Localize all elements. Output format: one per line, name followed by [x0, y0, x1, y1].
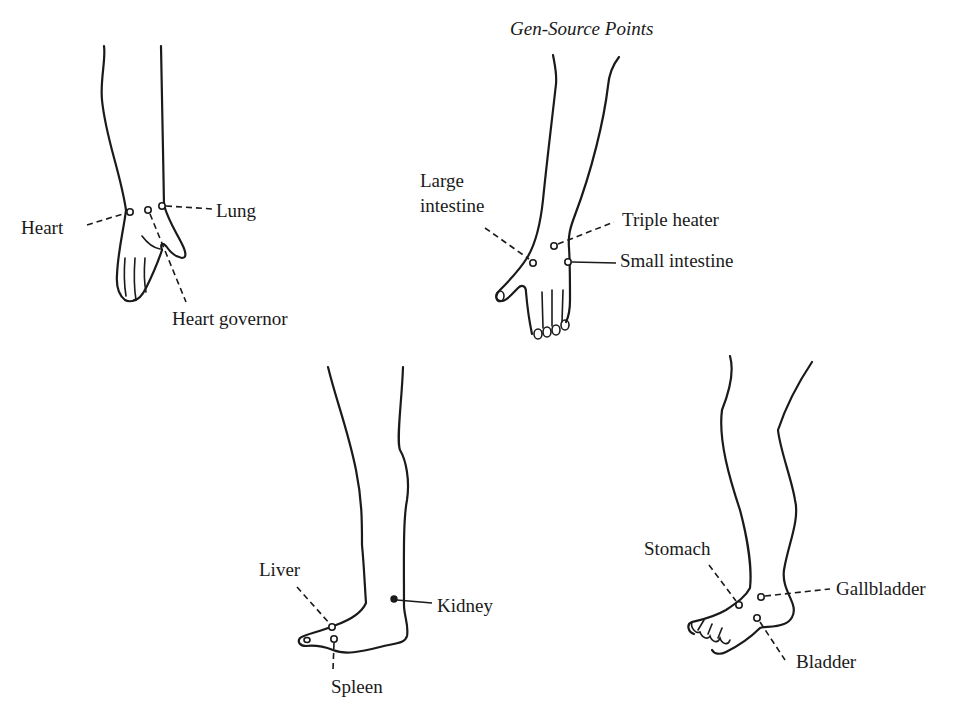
triple-heater-point: [551, 243, 557, 249]
label-lung: Lung: [216, 200, 256, 222]
diagram-title: Gen-Source Points: [510, 18, 653, 40]
figure-foot-medial: [297, 367, 432, 670]
figure-hand-palm: [87, 46, 213, 302]
label-heart: Heart: [21, 217, 63, 239]
label-large-intestine-line1: Large: [420, 170, 464, 192]
kidney-point: [391, 596, 397, 602]
liver-point: [329, 624, 335, 630]
label-gallbladder: Gallbladder: [836, 578, 926, 600]
figure-foot-lateral: [688, 356, 830, 660]
label-bladder: Bladder: [796, 651, 856, 673]
spleen-point: [331, 636, 337, 642]
label-large-intestine-line2: intestine: [420, 195, 484, 217]
bladder-point: [754, 615, 760, 621]
small-intestine-point: [565, 259, 571, 265]
large-intestine-point: [530, 260, 536, 266]
heart-governor-point: [145, 207, 151, 213]
label-heart-governor: Heart governor: [172, 308, 288, 330]
gen-source-points-diagram: Gen-Source Points Heart Lung Heart gover…: [0, 0, 980, 719]
label-small-intestine: Small intestine: [620, 250, 733, 272]
label-spleen: Spleen: [331, 676, 383, 698]
figure-hand-back: [485, 55, 619, 339]
lung-point: [159, 203, 165, 209]
gallbladder-point: [758, 594, 764, 600]
label-kidney: Kidney: [437, 595, 493, 617]
label-triple-heater: Triple heater: [622, 209, 719, 231]
label-liver: Liver: [259, 559, 300, 581]
heart-point: [127, 209, 133, 215]
stomach-point: [736, 602, 742, 608]
label-stomach: Stomach: [644, 538, 711, 560]
